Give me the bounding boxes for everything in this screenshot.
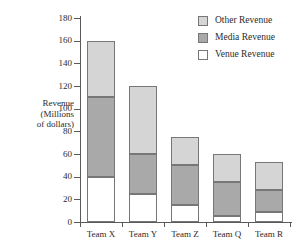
legend-item: Media Revenue xyxy=(198,29,298,46)
bar-segment-venue-revenue xyxy=(255,212,283,222)
y-tick-label: 60 xyxy=(48,150,72,159)
x-axis-line xyxy=(80,222,292,223)
bar-segment-other-revenue xyxy=(87,41,115,98)
y-tick xyxy=(74,131,80,132)
bar-segment-other-revenue xyxy=(171,137,199,165)
y-tick xyxy=(74,18,80,19)
x-tick xyxy=(164,222,165,227)
x-tick xyxy=(206,222,207,227)
y-tick-label-wrap: 180 xyxy=(46,14,72,23)
y-axis-line xyxy=(80,16,81,224)
y-tick-label-wrap: 120 xyxy=(46,82,72,91)
y-tick-label-wrap: 160 xyxy=(46,36,72,45)
legend-label: Media Revenue xyxy=(215,32,275,43)
y-tick-label: 120 xyxy=(48,82,72,91)
bar-team-y xyxy=(129,86,157,222)
y-tick-label-wrap: 20 xyxy=(46,195,72,204)
y-tick xyxy=(74,154,80,155)
y-tick-label: 20 xyxy=(48,195,72,204)
bar-segment-other-revenue xyxy=(129,86,157,154)
x-tick xyxy=(80,222,81,227)
bar-segment-venue-revenue xyxy=(171,205,199,222)
legend-swatch-icon xyxy=(198,16,208,26)
x-tick xyxy=(290,222,291,227)
y-tick xyxy=(74,199,80,200)
bar-segment-media-revenue xyxy=(129,154,157,194)
bar-segment-media-revenue xyxy=(171,165,199,205)
y-tick-label-wrap: 80 xyxy=(46,127,72,136)
legend-item: Venue Revenue xyxy=(198,46,298,63)
y-tick xyxy=(74,177,80,178)
legend-swatch-icon xyxy=(198,33,208,43)
bar-segment-venue-revenue xyxy=(129,194,157,222)
bar-segment-other-revenue xyxy=(213,154,241,182)
y-tick-label-wrap: 100 xyxy=(46,104,72,113)
y-tick xyxy=(74,109,80,110)
bar-segment-media-revenue xyxy=(255,190,283,212)
x-tick xyxy=(122,222,123,227)
y-tick-label: 0 xyxy=(48,218,72,227)
x-axis-label-team-y: Team Y xyxy=(120,229,166,240)
legend-label: Other Revenue xyxy=(215,15,272,26)
bar-team-z xyxy=(171,137,199,222)
bar-segment-media-revenue xyxy=(213,182,241,216)
y-tick xyxy=(74,86,80,87)
y-tick-label: 40 xyxy=(48,172,72,181)
bar-segment-media-revenue xyxy=(87,97,115,176)
x-axis-label-team-z: Team Z xyxy=(162,229,208,240)
stacked-bar-chart: Revenue (Millions of dollars) 0204060801… xyxy=(0,0,301,246)
y-tick-label: 160 xyxy=(48,36,72,45)
y-tick-label: 100 xyxy=(48,104,72,113)
y-tick xyxy=(74,63,80,64)
x-tick xyxy=(248,222,249,227)
x-axis-label-team-r: Team R xyxy=(246,229,292,240)
legend-item: Other Revenue xyxy=(198,12,298,29)
y-tick-label: 80 xyxy=(48,127,72,136)
y-tick-label-wrap: 140 xyxy=(46,59,72,68)
x-axis-label-team-x: Team X xyxy=(78,229,124,240)
bar-team-x xyxy=(87,41,115,222)
bar-team-q xyxy=(213,154,241,222)
legend-swatch-icon xyxy=(198,50,208,60)
y-tick-label-wrap: 40 xyxy=(46,172,72,181)
y-tick-label-wrap: 60 xyxy=(46,150,72,159)
y-tick-label-wrap: 0 xyxy=(46,218,72,227)
chart-legend: Other RevenueMedia RevenueVenue Revenue xyxy=(198,12,298,63)
bar-team-r xyxy=(255,162,283,222)
x-axis-label-team-q: Team Q xyxy=(204,229,250,240)
legend-label: Venue Revenue xyxy=(215,49,274,60)
y-tick-label: 140 xyxy=(48,59,72,68)
bar-segment-venue-revenue xyxy=(213,216,241,222)
y-tick xyxy=(74,41,80,42)
y-tick-label: 180 xyxy=(48,14,72,23)
bar-segment-venue-revenue xyxy=(87,177,115,222)
bar-segment-other-revenue xyxy=(255,162,283,190)
